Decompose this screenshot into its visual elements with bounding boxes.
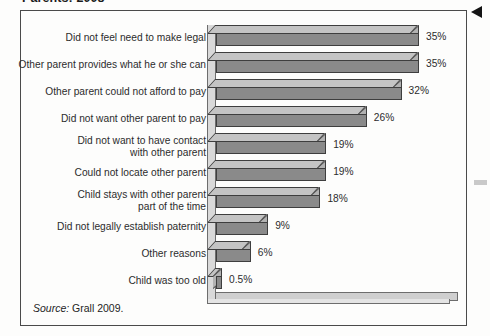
category-label: Other reasons — [0, 248, 206, 260]
bar-front-face — [216, 33, 419, 46]
bar-value-label: 19% — [333, 166, 353, 177]
bar-front-face — [216, 195, 320, 208]
bar-3d — [207, 214, 268, 241]
bar-3d — [207, 268, 222, 295]
bar-3d — [207, 133, 326, 160]
bar-3d — [207, 160, 326, 187]
bar-value-label: 18% — [327, 193, 347, 204]
bar-row: Other reasons6% — [21, 241, 468, 268]
bar-row: Other parent provides what he or she can… — [21, 52, 468, 79]
figure-frame: Did not feel need to make legal35%Other … — [20, 10, 467, 326]
category-label: Child was too old — [0, 275, 206, 287]
category-label: Child stays with other parent part of th… — [0, 189, 206, 212]
bar-front-face — [216, 168, 326, 181]
source-note: Source: Grall 2009. — [33, 302, 123, 314]
category-label: Did not want other parent to pay — [0, 113, 206, 125]
source-label: Source: — [33, 302, 69, 314]
bar-chart-plot: Did not feel need to make legal35%Other … — [21, 11, 468, 327]
bar-front-face — [216, 249, 251, 262]
bar-front-face — [216, 114, 367, 127]
category-label: Could not locate other parent — [0, 167, 206, 179]
category-label: Did not feel need to make legal — [0, 32, 206, 44]
bar-value-label: 0.5% — [229, 274, 252, 285]
category-label: Did not want to have contact with other … — [0, 135, 206, 158]
bar-front-face — [216, 141, 326, 154]
category-label: Other parent provides what he or she can — [0, 59, 206, 71]
category-label: Other parent could not afford to pay — [0, 86, 206, 98]
margin-arrow-icon — [471, 6, 482, 18]
figure-title: Parents: 2008 — [22, 0, 105, 5]
bar-3d — [207, 79, 402, 106]
bar-value-label: 35% — [426, 31, 446, 42]
bar-row: Did not feel need to make legal35% — [21, 25, 468, 52]
bar-row: Did not want other parent to pay26% — [21, 106, 468, 133]
bar-front-face — [216, 87, 402, 100]
bar-3d — [207, 106, 367, 133]
bar-row: Did not legally establish paternity9% — [21, 214, 468, 241]
bar-3d — [207, 25, 419, 52]
bar-3d — [207, 187, 320, 214]
bar-row: Child stays with other parent part of th… — [21, 187, 468, 214]
bar-3d — [207, 52, 419, 79]
bar-value-label: 19% — [333, 139, 353, 150]
bar-row: Could not locate other parent19% — [21, 160, 468, 187]
chart-floor-front — [207, 299, 450, 304]
bar-value-label: 26% — [374, 112, 394, 123]
bar-row: Other parent could not afford to pay32% — [21, 79, 468, 106]
bar-value-label: 32% — [409, 85, 429, 96]
scanned-page: Parents: 2008 Did not feel need to make … — [0, 0, 490, 336]
category-label: Did not legally establish paternity — [0, 221, 206, 233]
bar-value-label: 35% — [426, 58, 446, 69]
bar-front-face — [216, 276, 222, 289]
bar-3d — [207, 241, 251, 268]
bar-value-label: 9% — [275, 220, 290, 231]
bar-row: Did not want to have contact with other … — [21, 133, 468, 160]
bar-row: Child was too old0.5% — [21, 268, 468, 295]
margin-tick-mark — [474, 180, 487, 185]
bar-value-label: 6% — [258, 247, 273, 258]
bar-front-face — [216, 222, 268, 235]
source-citation: Grall 2009. — [72, 302, 123, 314]
bar-front-face — [216, 60, 419, 73]
